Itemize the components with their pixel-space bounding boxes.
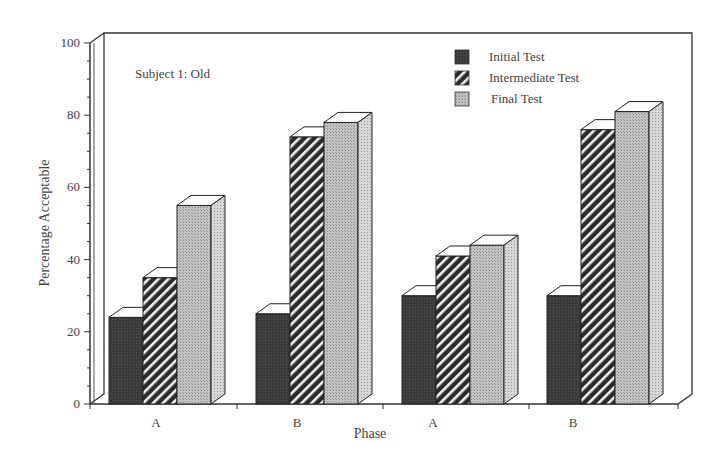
y-tick-label: 100 xyxy=(61,35,81,50)
legend: Initial TestIntermediate TestFinal Test xyxy=(455,49,580,106)
legend-swatch xyxy=(455,50,469,64)
bar-front xyxy=(470,245,504,404)
y-tick-label: 60 xyxy=(67,179,80,194)
bar xyxy=(470,235,518,404)
y-tick-label: 80 xyxy=(67,107,80,122)
bar-side xyxy=(504,235,518,404)
legend-item: Intermediate Test xyxy=(455,70,580,85)
x-axis-label: Phase xyxy=(354,426,387,441)
legend-item: Initial Test xyxy=(455,49,545,64)
bar-side xyxy=(211,195,225,404)
bar-front xyxy=(177,205,211,404)
x-tick-label: B xyxy=(569,415,578,430)
bar-front xyxy=(402,296,436,404)
bar-front xyxy=(324,122,358,404)
legend-label: Intermediate Test xyxy=(489,70,580,85)
bar-front xyxy=(615,112,649,404)
bar-front xyxy=(256,314,290,404)
chart-annotation: Subject 1: Old xyxy=(135,66,211,81)
bar-front xyxy=(547,296,581,404)
depth-edge xyxy=(90,33,104,43)
bar-front xyxy=(581,130,615,404)
y-axis-label: Percentage Acceptable xyxy=(37,159,52,286)
legend-item: Final Test xyxy=(455,91,543,106)
chart-canvas: ABAB 020406080100 Initial TestIntermedia… xyxy=(0,0,728,459)
x-tick-label: A xyxy=(151,415,161,430)
bar-group: A xyxy=(109,195,225,430)
legend-swatch xyxy=(455,92,469,106)
bar-front xyxy=(436,256,470,404)
bars: ABAB xyxy=(109,102,663,430)
legend-swatch xyxy=(455,71,469,85)
bar-front xyxy=(290,137,324,404)
legend-label: Final Test xyxy=(491,91,543,106)
x-tick-label: B xyxy=(293,415,302,430)
bar-group: B xyxy=(256,112,372,430)
y-tick-label: 0 xyxy=(74,396,81,411)
bar-group: A xyxy=(402,235,518,430)
y-tick-label: 20 xyxy=(67,324,80,339)
bar-front xyxy=(143,278,177,404)
bar-group: B xyxy=(547,102,663,430)
legend-label: Initial Test xyxy=(489,49,545,64)
bar-side xyxy=(649,102,663,404)
bar-chart: ABAB 020406080100 Initial TestIntermedia… xyxy=(0,0,728,459)
bar xyxy=(177,195,225,404)
x-tick-label: A xyxy=(428,415,438,430)
bar-side xyxy=(358,112,372,404)
bar xyxy=(324,112,372,404)
bar-front xyxy=(109,317,143,404)
bar xyxy=(615,102,663,404)
y-tick-label: 40 xyxy=(67,252,80,267)
